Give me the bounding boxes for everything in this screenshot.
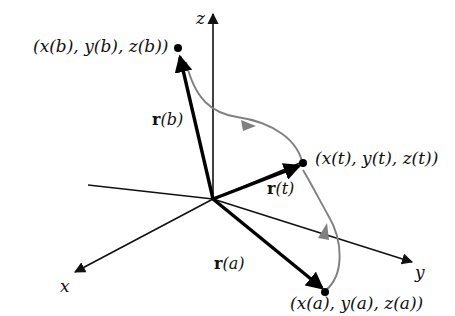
point-t-label: (x(t), y(t), z(t)): [315, 150, 438, 167]
vector-group: [180, 57, 322, 288]
point-b-dot: [174, 44, 182, 52]
point-group: [174, 44, 329, 296]
vector-r-t-label: r(t): [267, 181, 294, 197]
vector-r-b-label: r(b): [152, 112, 183, 128]
vector-r-b-arrow: [180, 57, 213, 199]
negative-y-axis-line: [88, 185, 213, 199]
point-t-dot: [299, 159, 307, 167]
vector-r-t-arg: (t): [275, 179, 294, 198]
vector-r-a-arrow: [213, 199, 322, 288]
point-a-label: (x(a), y(a), z(a)): [290, 295, 423, 312]
vector-function-diagram: (x(b), y(b), z(b)) (x(t), y(t), z(t)) (x…: [0, 0, 455, 316]
curve-arrowhead-lower: [318, 223, 329, 240]
y-axis-line: [213, 199, 412, 262]
vector-r-a-arg: (a): [222, 254, 244, 273]
vector-r-a-label: r(a): [214, 256, 244, 272]
vector-r-b-arg: (b): [160, 110, 183, 129]
x-axis-label: x: [60, 278, 70, 295]
x-axis-line: [75, 199, 213, 272]
y-axis-label: y: [415, 264, 425, 281]
curve-arrowhead-upper: [241, 120, 256, 131]
space-curve-lower-segment: [303, 170, 340, 291]
point-b-label: (x(b), y(b), z(b)): [33, 38, 168, 55]
z-axis-label: z: [196, 10, 205, 27]
